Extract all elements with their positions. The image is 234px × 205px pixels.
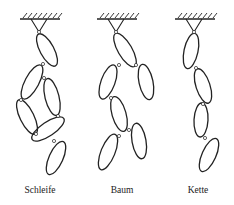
rigid-body-baum-2 — [95, 63, 120, 102]
joint-baum — [134, 63, 137, 66]
joint-kette — [194, 66, 197, 69]
rigid-body-baum-6 — [129, 122, 149, 160]
rigid-body-baum-5 — [94, 132, 121, 172]
joint-baum — [117, 63, 120, 66]
ground-hatch — [135, 13, 139, 18]
ground-hatch — [213, 13, 217, 18]
joint-kette — [201, 102, 204, 105]
ground-hatch — [130, 13, 134, 18]
label-baum: Baum — [111, 185, 134, 195]
joint-baum — [109, 96, 112, 99]
ground-hatch — [28, 13, 32, 18]
ground-hatch — [58, 13, 62, 18]
ground-hatch — [115, 13, 119, 18]
ground-hatch — [120, 13, 124, 18]
ground-hatch — [188, 13, 192, 18]
rigid-body-kette-4 — [195, 136, 222, 175]
rigid-body-baum-4 — [107, 95, 130, 133]
rigid-body-baum-3 — [135, 63, 156, 101]
ground-hatch — [48, 13, 52, 18]
rigid-body-kette-1 — [180, 32, 201, 70]
joint-kette — [203, 136, 206, 139]
joint-baum — [114, 30, 117, 33]
ground-hatch — [23, 13, 27, 18]
rigid-body-schleife-3 — [41, 77, 64, 117]
topology-diagram — [0, 0, 234, 205]
support-triangle-baum — [108, 19, 124, 32]
support-triangle-schleife — [31, 19, 47, 32]
joint-schleife — [56, 114, 59, 117]
ground-hatch — [178, 13, 182, 18]
ground-hatch — [125, 13, 129, 18]
ground-hatch — [43, 13, 47, 18]
rigid-body-schleife-4 — [12, 97, 41, 137]
joint-baum — [127, 128, 130, 131]
rigid-body-schleife-1 — [32, 31, 61, 69]
ground-hatch — [203, 13, 207, 18]
joint-schleife — [52, 139, 55, 142]
ground-hatch — [53, 13, 57, 18]
ground-hatch — [110, 13, 114, 18]
rigid-body-kette-2 — [191, 67, 215, 106]
joint-schleife — [34, 132, 37, 135]
ground-hatch — [33, 13, 37, 18]
joint-schleife — [42, 76, 45, 79]
ground-hatch — [193, 13, 197, 18]
rigid-body-schleife-2 — [17, 62, 47, 102]
ground-hatch — [208, 13, 212, 18]
ground-hatch — [105, 13, 109, 18]
rigid-body-kette-3 — [193, 103, 209, 138]
label-schleife: Schleife — [24, 185, 55, 195]
joint-schleife — [37, 30, 40, 33]
ground-hatch — [38, 13, 42, 18]
joint-baum — [117, 134, 120, 137]
support-triangle-kette — [186, 19, 202, 32]
ground-hatch — [100, 13, 104, 18]
joint-kette — [192, 30, 195, 33]
joint-schleife — [19, 98, 22, 101]
label-kette: Kette — [188, 185, 209, 195]
rigid-body-schleife-6 — [42, 139, 69, 178]
ground-hatch — [198, 13, 202, 18]
ground-hatch — [183, 13, 187, 18]
joint-schleife — [41, 62, 44, 65]
